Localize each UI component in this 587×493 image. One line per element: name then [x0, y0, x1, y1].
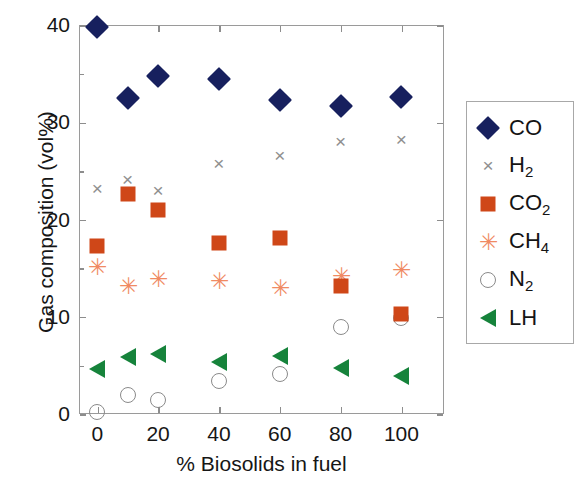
marker-square-icon [333, 278, 348, 293]
y-tick [80, 317, 86, 318]
legend-marker-lh [467, 300, 509, 336]
marker-x-icon: × [210, 155, 228, 173]
data-point-h2: × [280, 156, 298, 174]
data-point-ch4: ✳ [401, 270, 419, 288]
marker-circle-icon [480, 272, 496, 288]
y-minor-tick [80, 366, 84, 367]
legend-item-co[interactable]: CO [467, 110, 575, 146]
legend-marker-h2: × [467, 148, 509, 184]
y-minor-tick [80, 74, 84, 75]
legend-label-n2: N2 [509, 266, 533, 294]
legend-marker-n2 [467, 262, 509, 298]
x-tick-top [158, 26, 159, 32]
data-point-co2 [219, 243, 234, 258]
data-point-h2: × [219, 164, 237, 182]
data-point-co2 [128, 194, 143, 209]
data-point-n2 [128, 395, 144, 411]
marker-square-icon [151, 202, 166, 217]
legend-label-ch4: CH4 [509, 228, 549, 256]
marker-x-icon: × [88, 180, 106, 198]
data-point-ch4: ✳ [97, 267, 115, 285]
x-axis-label: % Biosolids in fuel [79, 452, 444, 476]
data-point-co [341, 106, 358, 123]
x-tick-label: 20 [146, 422, 169, 446]
y-tick-label: 40 [20, 13, 70, 37]
legend-label-h2: H2 [509, 152, 533, 180]
y-tick-right [437, 220, 443, 221]
marker-circle-icon [89, 404, 105, 420]
legend-label-lh: LH [509, 305, 537, 331]
marker-left-triangle-icon [120, 348, 136, 366]
x-tick [402, 407, 403, 413]
data-point-co [219, 79, 236, 96]
legend-item-ch4[interactable]: ✳CH4 [467, 224, 575, 260]
legend-item-lh[interactable]: LH [467, 300, 575, 336]
x-tick-label: 60 [268, 422, 291, 446]
data-point-co [97, 27, 114, 44]
legend-item-h2[interactable]: ×H2 [467, 148, 575, 184]
data-point-n2 [341, 327, 357, 343]
y-tick-right [437, 25, 443, 26]
legend-marker-co2 [467, 186, 509, 222]
marker-x-icon: × [149, 182, 167, 200]
data-point-co [401, 97, 418, 114]
y-tick-right [437, 317, 443, 318]
data-point-h2: × [341, 142, 359, 160]
data-point-co [158, 76, 175, 93]
y-minor-tick [80, 268, 84, 269]
data-point-h2: × [97, 189, 115, 207]
y-axis-label: Gas composition (vol%) [34, 82, 58, 362]
marker-asterisk-icon: ✳ [210, 272, 228, 290]
marker-asterisk-icon: ✳ [479, 233, 497, 251]
marker-x-icon: × [392, 131, 410, 149]
y-tick-label: 0 [20, 402, 70, 426]
marker-circle-icon [150, 392, 166, 408]
marker-square-icon [211, 235, 226, 250]
marker-square-icon [90, 238, 105, 253]
marker-square-icon [481, 197, 496, 212]
data-point-co2 [341, 286, 356, 301]
marker-square-icon [272, 230, 287, 245]
legend-label-co2: CO2 [509, 190, 550, 218]
marker-left-triangle-icon [150, 345, 166, 363]
data-point-n2 [280, 374, 296, 390]
y-tick [80, 123, 86, 124]
marker-left-triangle-icon [480, 309, 496, 327]
data-point-ch4: ✳ [128, 286, 146, 304]
marker-asterisk-icon: ✳ [149, 270, 167, 288]
chart-legend: CO×H2CO2✳CH4N2LH [466, 101, 574, 344]
x-tick-label: 80 [329, 422, 352, 446]
x-tick [280, 407, 281, 413]
data-point-n2 [219, 381, 235, 397]
marker-left-triangle-icon [272, 347, 288, 365]
data-point-lh [401, 376, 417, 394]
legend-marker-ch4: ✳ [467, 224, 509, 260]
marker-square-icon [120, 187, 135, 202]
x-tick-top [402, 26, 403, 32]
x-tick [341, 407, 342, 413]
data-point-co [280, 100, 297, 117]
y-tick [80, 414, 86, 415]
marker-left-triangle-icon [393, 367, 409, 385]
marker-left-triangle-icon [89, 360, 105, 378]
marker-x-icon: × [332, 133, 350, 151]
x-tick-top [341, 26, 342, 32]
x-tick-top [219, 26, 220, 32]
data-point-lh [97, 369, 113, 387]
legend-item-co2[interactable]: CO2 [467, 186, 575, 222]
legend-item-n2[interactable]: N2 [467, 262, 575, 298]
data-point-co [128, 98, 145, 115]
y-tick-right [437, 123, 443, 124]
marker-asterisk-icon: ✳ [392, 261, 410, 279]
marker-circle-icon [120, 387, 136, 403]
x-tick-label: 40 [207, 422, 230, 446]
marker-x-icon: × [479, 157, 497, 175]
data-point-co2 [158, 210, 173, 225]
data-point-n2 [97, 412, 113, 428]
data-point-ch4: ✳ [219, 281, 237, 299]
marker-left-triangle-icon [211, 353, 227, 371]
y-tick [80, 220, 86, 221]
chart-figure: 020406080100010203040 ×××××××✳✳✳✳✳✳✳ % B… [0, 0, 587, 493]
y-tick-right [437, 414, 443, 415]
marker-circle-icon [333, 319, 349, 335]
